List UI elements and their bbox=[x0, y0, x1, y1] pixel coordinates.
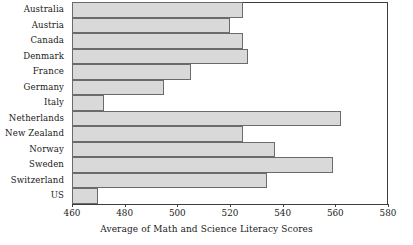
x-tick-label: 540 bbox=[274, 208, 291, 218]
x-tick-mark bbox=[335, 204, 336, 207]
x-tick-label: 480 bbox=[116, 208, 133, 218]
x-tick-label: 500 bbox=[169, 208, 186, 218]
bar bbox=[72, 126, 243, 142]
category-label: Norway bbox=[29, 142, 64, 158]
x-tick-mark bbox=[177, 204, 178, 207]
category-label: Austria bbox=[32, 18, 64, 34]
bar bbox=[72, 142, 275, 158]
x-tick-label: 460 bbox=[64, 208, 81, 218]
bar bbox=[72, 157, 333, 173]
bar bbox=[72, 49, 248, 65]
category-label: Germany bbox=[24, 80, 64, 96]
x-tick-label: 580 bbox=[380, 208, 397, 218]
bar bbox=[72, 80, 164, 96]
category-label: Australia bbox=[24, 2, 64, 18]
category-label: Switzerland bbox=[11, 173, 64, 189]
bar bbox=[72, 18, 230, 34]
x-tick-label: 560 bbox=[327, 208, 344, 218]
bar-chart: AustraliaAustriaCanadaDenmarkFranceGerma… bbox=[0, 0, 413, 245]
bar bbox=[72, 188, 98, 204]
x-tick-mark bbox=[388, 204, 389, 207]
bar bbox=[72, 2, 243, 18]
category-label: Canada bbox=[30, 33, 64, 49]
x-tick-mark bbox=[125, 204, 126, 207]
category-label: France bbox=[33, 64, 64, 80]
bar bbox=[72, 173, 267, 189]
category-label: Sweden bbox=[29, 157, 64, 173]
category-label: Italy bbox=[44, 95, 64, 111]
x-tick-label: 520 bbox=[222, 208, 239, 218]
category-label: Denmark bbox=[23, 49, 64, 65]
bar bbox=[72, 33, 243, 49]
category-label: Netherlands bbox=[9, 111, 64, 127]
x-tick-mark bbox=[283, 204, 284, 207]
category-axis-labels: AustraliaAustriaCanadaDenmarkFranceGerma… bbox=[0, 2, 68, 204]
category-label: US bbox=[51, 188, 64, 204]
category-label: New Zealand bbox=[5, 126, 64, 142]
bar bbox=[72, 95, 104, 111]
bar bbox=[72, 111, 341, 127]
bar bbox=[72, 64, 191, 80]
plot-area bbox=[72, 2, 388, 204]
x-tick-mark bbox=[230, 204, 231, 207]
x-axis-title: Average of Math and Science Literacy Sco… bbox=[0, 224, 413, 234]
x-tick-mark bbox=[72, 204, 73, 207]
